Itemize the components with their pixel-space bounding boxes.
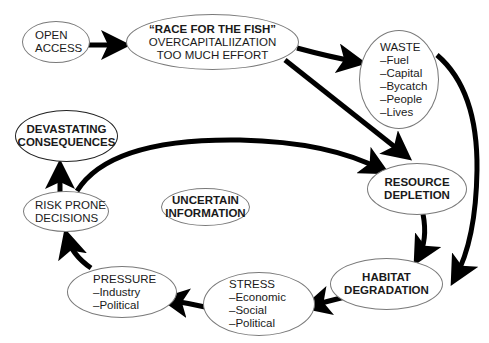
node-stress-item: –Political (229, 317, 275, 330)
node-resource-line: DEPLETION (384, 189, 450, 202)
node-stress-item: –Social (229, 304, 267, 317)
node-race-title: “RACE FOR THE FISH” (149, 23, 276, 36)
node-waste-item: –People (380, 93, 422, 106)
node-waste-item: –Fuel (380, 54, 409, 67)
node-risk-line: DECISIONS (35, 212, 98, 225)
node-pressure-item: –Political (93, 299, 139, 312)
node-risk-line: RISK PRONE (35, 199, 106, 212)
node-uncertain-line: UNCERTAIN (172, 194, 239, 207)
node-pressure-item: –Industry (93, 286, 140, 299)
node-risk-prone-decisions: RISK PRONE DECISIONS (23, 191, 109, 232)
node-waste-title: WASTE (380, 41, 420, 54)
arrow-race-to-waste (297, 48, 358, 62)
node-open-access-line: OPEN (35, 29, 68, 42)
node-pressure-title: PRESSURE (93, 273, 156, 286)
node-habitat-line: DEGRADATION (344, 284, 429, 297)
node-resource-depletion: RESOURCE DEPLETION (367, 163, 467, 215)
arrow-pressure-to-risk (67, 237, 91, 268)
node-open-access: OPEN ACCESS (22, 21, 90, 63)
node-waste-item: –Capital (380, 67, 422, 80)
node-uncertain-information: UNCERTAIN INFORMATION (161, 188, 250, 226)
arrow-risk-to-resource (77, 140, 382, 191)
arrow-resource-to-habitat (418, 214, 425, 258)
node-pressure: PRESSURE –Industry –Political (67, 266, 177, 318)
node-waste: WASTE –Fuel –Capital –Bycatch –People –L… (359, 30, 439, 129)
node-waste-item: –Bycatch (380, 80, 427, 93)
node-race-line: OVERCAPITALIIZATION (149, 36, 276, 49)
node-habitat-line: HABITAT (362, 271, 411, 284)
node-race-for-the-fish: “RACE FOR THE FISH” OVERCAPITALIIZATION … (126, 14, 299, 70)
node-resource-line: RESOURCE (384, 176, 449, 189)
node-uncertain-line: INFORMATION (165, 207, 245, 220)
node-waste-item: –Lives (380, 106, 413, 119)
node-stress-title: STRESS (229, 278, 275, 291)
node-devastating-consequences: DEVASTATING CONSEQUENCES (15, 110, 118, 162)
node-race-line: TOO MUCH EFFORT (157, 49, 268, 62)
node-devastating-line: CONSEQUENCES (18, 136, 116, 149)
node-habitat-degradation: HABITAT DEGRADATION (330, 258, 443, 310)
node-stress: STRESS –Economic –Social –Political (203, 272, 315, 336)
node-stress-item: –Economic (229, 291, 286, 304)
node-open-access-line: ACCESS (35, 42, 82, 55)
node-devastating-line: DEVASTATING (27, 123, 107, 136)
